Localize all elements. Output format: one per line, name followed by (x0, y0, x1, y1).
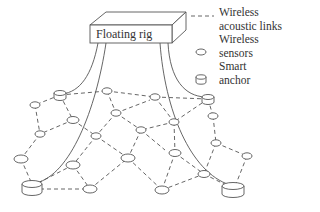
legend-item-links-line1: Wireless (219, 6, 259, 18)
smart-anchor-2 (202, 95, 214, 105)
legend-anchor-icon (196, 75, 206, 84)
smart-anchor-1 (54, 91, 66, 101)
legend-item-links-line2: acoustic links (219, 20, 282, 32)
legend-sensor-icon (196, 49, 206, 55)
legend-item-anchor-line2: anchor (219, 74, 250, 86)
smart-anchor-3 (22, 181, 42, 196)
legend-item-sensors-line1: Wireless (219, 33, 259, 45)
legend-symbols (191, 16, 214, 84)
legend-item-anchor-line1: Smart (219, 60, 246, 72)
smart-anchor-4 (222, 183, 244, 198)
mooring-cables (36, 43, 230, 185)
floating-rig-label: Floating rig (96, 27, 152, 42)
legend-item-sensors-line2: sensors (219, 47, 253, 59)
smart-anchors (22, 91, 244, 198)
